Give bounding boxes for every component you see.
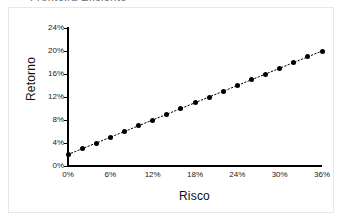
data-point (263, 72, 268, 77)
data-point (108, 135, 113, 140)
data-point (207, 95, 212, 100)
data-point (80, 146, 85, 151)
data-point (66, 152, 71, 157)
data-point (150, 118, 155, 123)
data-point (193, 100, 198, 105)
series-trend-line (0, 0, 343, 221)
chart-figure: Fronteira Eficiente 0%4%8%12%16%20%24% 0… (0, 0, 343, 221)
data-point (122, 129, 127, 134)
data-point (277, 66, 282, 71)
data-point (235, 83, 240, 88)
data-point (221, 89, 226, 94)
data-point (320, 49, 325, 54)
y-axis-label: Retorno (24, 39, 38, 119)
x-axis-label: Risco (67, 189, 322, 203)
plot-area: 0%4%8%12%16%20%24% 0%6%12%18%24%30%36% R… (0, 0, 343, 221)
data-point (94, 141, 99, 146)
